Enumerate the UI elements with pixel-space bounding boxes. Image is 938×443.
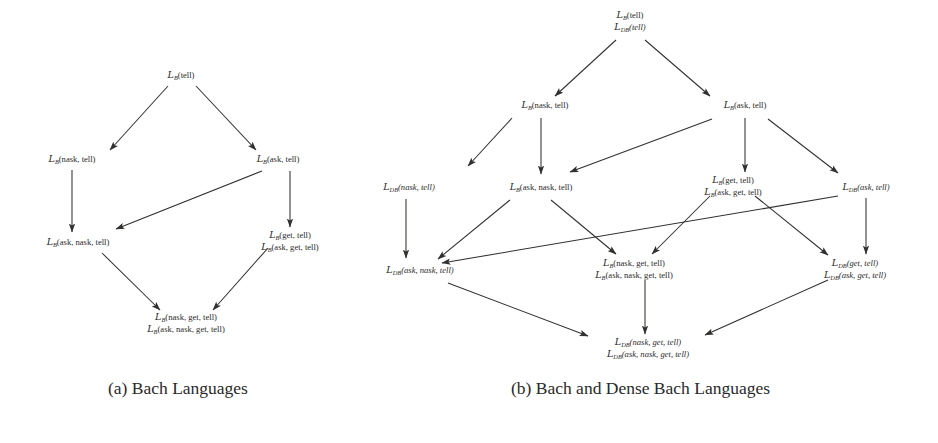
node-a-bottom: LB(nask, get, tell)LB(ask, nask, get, te… [146, 311, 225, 335]
node-label: LB(ask, tell) [256, 153, 300, 165]
edge-a-tell-to-a-nask-tell [110, 86, 168, 150]
node-label: LDB(nask, get, tell) [614, 336, 681, 348]
edge-b-get-tell-to-b-db-get-tell [755, 196, 828, 255]
node-b-db-nask-tell: LDB(nask, tell) [382, 181, 435, 193]
edge-b-db-ask-tell-to-b-db-ask-nask [442, 196, 838, 263]
node-label: LB(ask, nask, get, tell) [146, 323, 225, 335]
node-a-tell: LB(tell) [167, 69, 195, 81]
node-label: LDB(get, tell) [831, 257, 878, 269]
node-label: LDB(ask, nask, tell) [385, 264, 453, 276]
node-b-nask-tell: LB(nask, tell) [521, 99, 569, 111]
node-a-ask-tell: LB(ask, tell) [256, 153, 300, 165]
node-label: LB(ask, get, tell) [703, 186, 762, 198]
nodes-layer: LB(tell)LB(nask, tell)LB(ask, tell)LB(as… [46, 9, 890, 360]
node-b-db-get-tell: LDB(get, tell)LDB(ask, get, tell) [823, 257, 886, 281]
node-label: LDB(nask, tell) [382, 181, 435, 193]
node-label: LB(nask, tell) [521, 99, 569, 111]
node-a-get-tell: LB(get, tell)LB(ask, get, tell) [260, 229, 319, 253]
caption-panel-b: (b) Bach and Dense Bach Languages [511, 378, 770, 399]
hasse-diagram-svg: LB(tell)LB(nask, tell)LB(ask, tell)LB(as… [0, 0, 938, 443]
node-label: LB(nask, get, tell) [154, 311, 217, 323]
node-label: LB(tell) [167, 69, 195, 81]
edge-a-tell-to-a-ask-tell [196, 86, 256, 150]
node-label: LB(ask, tell) [723, 99, 767, 111]
edge-b-db-get-tell-to-b-bottom [705, 280, 828, 335]
edge-b-ask-tell-to-b-db-ask-tell [768, 119, 838, 173]
node-b-get-tell: LB(get, tell)LB(ask, get, tell) [703, 174, 762, 198]
edge-a-ask-nask-tell-to-a-bottom [102, 253, 160, 310]
edge-b-ask-tell-to-b-ask-nask-tell [570, 119, 712, 172]
node-label: LDB(ask, nask, get, tell) [606, 348, 689, 360]
edge-b-ask-nask-tell-to-b-db-ask-nask [438, 200, 510, 259]
edge-a-ask-tell-to-a-ask-nask-tell [116, 171, 262, 229]
node-a-nask-tell: LB(nask, tell) [48, 153, 96, 165]
edge-b-get-tell-to-b-nask-get-tell [652, 196, 710, 254]
edge-b-tell-to-b-nask-tell [555, 40, 616, 96]
edge-b-ask-nask-tell-to-b-nask-get-tell [551, 200, 616, 254]
figure-root: LB(tell)LB(nask, tell)LB(ask, tell)LB(as… [0, 0, 938, 443]
edge-b-tell-to-b-ask-tell [645, 40, 710, 96]
node-a-ask-nask-tell: LB(ask, nask, tell) [46, 236, 110, 248]
node-label: LB(ask, get, tell) [260, 241, 319, 253]
node-label: LB(ask, nask, get, tell) [594, 269, 673, 281]
node-label: LB(get, tell) [268, 229, 311, 241]
node-b-ask-tell: LB(ask, tell) [723, 99, 767, 111]
node-label: LB(tell) [616, 9, 644, 21]
node-b-bottom: LDB(nask, get, tell)LDB(ask, nask, get, … [606, 336, 689, 360]
node-label: LB(ask, nask, tell) [46, 236, 110, 248]
node-b-db-ask-tell: LDB(ask, tell) [841, 181, 889, 193]
node-label: LB(ask, nask, tell) [509, 181, 573, 193]
node-label: LDB(ask, get, tell) [823, 269, 886, 281]
caption-panel-a: (a) Bach Languages [108, 378, 248, 399]
node-label: LB(nask, tell) [48, 153, 96, 165]
node-label: LB(nask, get, tell) [602, 257, 665, 269]
node-label: LDB(ask, tell) [841, 181, 889, 193]
edge-b-nask-tell-to-b-db-nask-tell [468, 118, 512, 166]
node-b-nask-get-tell: LB(nask, get, tell)LB(ask, nask, get, te… [594, 257, 673, 281]
node-label: LB(get, tell) [711, 174, 754, 186]
node-b-db-ask-nask: LDB(ask, nask, tell) [385, 264, 453, 276]
node-b-ask-nask-tell: LB(ask, nask, tell) [509, 181, 573, 193]
edge-b-db-ask-nask-to-b-bottom [448, 283, 588, 336]
node-label: LDB(tell) [613, 21, 646, 33]
node-b-tell: LB(tell)LDB(tell) [613, 9, 646, 33]
edge-a-get-tell-to-a-bottom [213, 248, 268, 310]
